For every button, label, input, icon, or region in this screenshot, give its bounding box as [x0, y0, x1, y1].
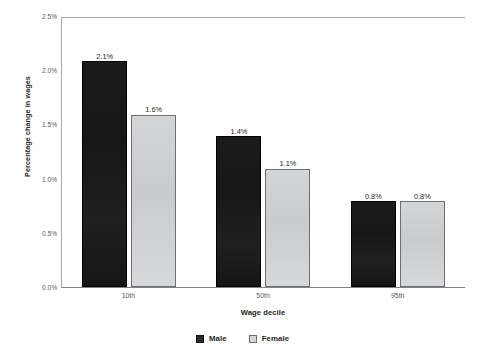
bar-female-50th[interactable]: 1.1%: [265, 169, 310, 287]
bar-group-bars: 0.8% 0.8%: [331, 18, 465, 287]
bar-group-bars: 2.1% 1.6%: [62, 18, 196, 287]
bar-value-label: 1.4%: [231, 128, 248, 135]
bar-group-50th: 1.4% 1.1%: [196, 18, 330, 287]
chart-legend: Male Female: [0, 335, 485, 343]
bar-female-95th[interactable]: 0.8%: [400, 201, 445, 287]
bar-slot-female: 1.6%: [131, 18, 176, 287]
bar-male-10th[interactable]: 2.1%: [82, 61, 127, 287]
y-tick-label: 0.5%: [28, 231, 57, 238]
bar-value-label: 2.1%: [96, 53, 113, 60]
y-tick-label: 1.5%: [28, 122, 57, 129]
bar-slot-male: 0.8%: [351, 18, 396, 287]
x-tick-label: 95th: [330, 293, 465, 300]
legend-item-male[interactable]: Male: [196, 335, 227, 343]
y-tick-label: 0.0%: [28, 285, 57, 292]
bar-value-label: 1.6%: [145, 106, 162, 113]
bar-slot-male: 2.1%: [82, 18, 127, 287]
bar-female-10th[interactable]: 1.6%: [131, 115, 176, 287]
bar-groups: 2.1% 1.6% 1.4%: [62, 18, 465, 287]
y-tick-label: 1.0%: [28, 176, 57, 183]
bar-slot-female: 0.8%: [400, 18, 445, 287]
bar-value-label: 0.8%: [414, 193, 431, 200]
bar-male-95th[interactable]: 0.8%: [351, 201, 396, 287]
plot-area: 2.1% 1.6% 1.4%: [61, 17, 465, 288]
legend-item-female[interactable]: Female: [249, 335, 289, 343]
y-tick-label: 2.5%: [28, 14, 57, 21]
bar-male-50th[interactable]: 1.4%: [216, 136, 261, 287]
x-tick-label: 50th: [196, 293, 331, 300]
bar-slot-male: 1.4%: [216, 18, 261, 287]
y-axis-tick-labels: 2.5% 2.0% 1.5% 1.0% 0.5% 0.0%: [28, 17, 57, 288]
legend-label: Female: [262, 335, 289, 343]
x-axis-title: Wage decile: [61, 308, 465, 317]
bar-value-label: 1.1%: [280, 160, 297, 167]
x-axis-tick-labels: 10th 50th 95th: [61, 293, 465, 300]
female-swatch-icon: [249, 335, 257, 343]
bar-value-label: 0.8%: [365, 193, 382, 200]
male-swatch-icon: [196, 335, 204, 343]
bar-chart: Percentage change in wages 2.5% 2.0% 1.5…: [0, 0, 485, 362]
bar-group-bars: 1.4% 1.1%: [196, 18, 330, 287]
y-tick-label: 2.0%: [28, 68, 57, 75]
bar-slot-female: 1.1%: [265, 18, 310, 287]
legend-label: Male: [209, 335, 227, 343]
bar-group-10th: 2.1% 1.6%: [62, 18, 196, 287]
x-tick-label: 10th: [61, 293, 196, 300]
bar-group-95th: 0.8% 0.8%: [331, 18, 465, 287]
